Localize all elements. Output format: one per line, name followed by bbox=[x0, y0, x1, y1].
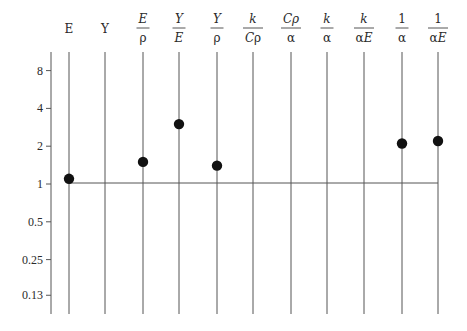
ratio-scatter-chart: 84210.50.250.13 EYEρYEYρkCρCραkαkαE1α1αE bbox=[0, 0, 467, 331]
y-axis: 84210.50.250.13 bbox=[22, 52, 51, 314]
category-label-denominator: α bbox=[398, 31, 406, 45]
category-label: Y bbox=[100, 22, 110, 36]
data-point bbox=[212, 160, 222, 170]
category-label-denominator: ρ bbox=[139, 31, 146, 45]
data-point bbox=[64, 174, 74, 184]
y-tick-label: 0.5 bbox=[28, 215, 43, 229]
category-label-numerator: k bbox=[360, 12, 367, 26]
category-label-denominator: αE bbox=[356, 31, 373, 45]
data-point bbox=[397, 138, 407, 148]
category-label-denominator: α bbox=[323, 31, 331, 45]
category-label-numerator: 1 bbox=[434, 12, 442, 26]
y-tick-label: 4 bbox=[37, 101, 43, 115]
category-label-denominator: ρ bbox=[213, 31, 220, 45]
category-label-denominator: αE bbox=[430, 31, 447, 45]
category-label-numerator: Y bbox=[175, 12, 184, 26]
category-label-denominator: α bbox=[287, 31, 295, 45]
y-tick-label: 0.13 bbox=[22, 288, 43, 302]
data-point bbox=[433, 136, 443, 146]
category-label-numerator: Y bbox=[213, 12, 222, 26]
category-label-numerator: k bbox=[249, 12, 256, 26]
y-tick-label: 2 bbox=[37, 139, 43, 153]
category-label: E bbox=[65, 22, 74, 36]
y-tick-label: 8 bbox=[37, 64, 43, 78]
data-point bbox=[138, 157, 148, 167]
y-tick-label: 0.25 bbox=[22, 253, 43, 267]
category-label-numerator: 1 bbox=[398, 12, 406, 26]
category-label-denominator: E bbox=[174, 31, 184, 45]
y-tick-label: 1 bbox=[37, 177, 43, 191]
category-label-numerator: E bbox=[138, 12, 148, 26]
category-labels: EYEρYEYρkCρCραkαkαE1α1αE bbox=[65, 12, 448, 45]
category-label-numerator: k bbox=[323, 12, 330, 26]
category-label-numerator: Cρ bbox=[283, 12, 299, 26]
category-label-denominator: Cρ bbox=[245, 31, 261, 45]
data-point bbox=[174, 119, 184, 129]
